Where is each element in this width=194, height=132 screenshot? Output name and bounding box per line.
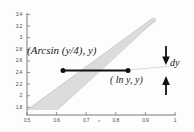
x-tick-label: 0.8	[109, 117, 123, 123]
y-tick-label: 2.8	[10, 46, 22, 52]
left-point-label: (Arcsin (y/4), y)	[27, 44, 97, 56]
dy-up-arrow	[162, 76, 170, 95]
curve-arcsin-boundary	[27, 18, 153, 110]
plot-canvas	[0, 0, 194, 132]
strip-right-endpoint	[126, 68, 131, 73]
x-tick-label: 1	[168, 117, 182, 123]
dy-label: dy	[170, 57, 179, 68]
plot-figure: 3.4 3.2 3 2.8 2.6 2.4 2.2 2 1.8 0.5 0.6 …	[0, 0, 194, 132]
x-tick-label: 0.5	[20, 117, 34, 123]
x-tick-label: 0.7	[79, 117, 93, 123]
y-tick-label: 3.4	[10, 11, 22, 17]
x-axis-label: x	[98, 118, 100, 123]
y-tick-label: 2.2	[10, 81, 22, 87]
y-tick-label: 1.8	[10, 104, 22, 110]
right-point-label: ( ln y, y)	[110, 74, 143, 85]
y-tick-label: 2.6	[10, 57, 22, 63]
x-tick-label: 0.9	[138, 117, 152, 123]
x-tick-label: 0.6	[50, 117, 64, 123]
strip-left-endpoint	[61, 68, 66, 73]
strip-guide-line	[128, 66, 172, 70]
y-tick-label: 3.2	[10, 23, 22, 29]
y-tick-label: 2.4	[10, 69, 22, 75]
y-tick-label: 2	[10, 92, 22, 98]
y-tick-label: 3	[10, 34, 22, 40]
dy-down-arrow	[162, 46, 170, 65]
